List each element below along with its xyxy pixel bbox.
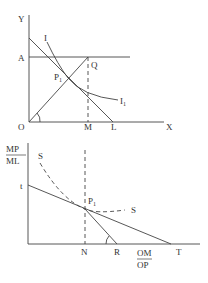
label-T: T [176, 247, 182, 257]
line-tT [28, 185, 171, 244]
label-P1: P1 [54, 72, 62, 83]
origin-label: O [18, 122, 25, 132]
label-Q: Q [91, 60, 98, 70]
x-axis-label: X [166, 122, 173, 132]
label-M: M [84, 122, 92, 132]
label-I: I [44, 33, 47, 43]
x-label-numerator: OM [137, 248, 152, 258]
diagram: Y X O A Q P1 M L I I1 MP ML t S S P1 N R… [0, 0, 208, 283]
angle-arc-R [106, 236, 109, 244]
label-t: t [20, 181, 23, 191]
curve-S [40, 163, 125, 212]
label-I1: I1 [120, 96, 126, 107]
label-A: A [18, 53, 25, 63]
bottom-labels: MP ML t S S P1 N R T OM OP [6, 144, 182, 270]
y-axis-label: Y [18, 14, 25, 24]
label-S-left: S [38, 151, 43, 161]
label-L: L [111, 122, 117, 132]
line-P1R [85, 209, 117, 244]
label-N: N [81, 247, 88, 257]
angle-arc [37, 113, 40, 122]
label-R: R [114, 247, 120, 257]
y-label-denominator: ML [6, 156, 20, 166]
label-P1-bottom: P1 [88, 196, 96, 207]
bottom-panel [28, 143, 200, 244]
top-labels: Y X O A Q P1 M L I I1 [18, 14, 173, 132]
ray-OQ [29, 57, 88, 122]
budget-line [29, 38, 113, 122]
label-S-right: S [131, 205, 136, 215]
x-label-denominator: OP [137, 260, 149, 270]
y-label-numerator: MP [6, 144, 19, 154]
